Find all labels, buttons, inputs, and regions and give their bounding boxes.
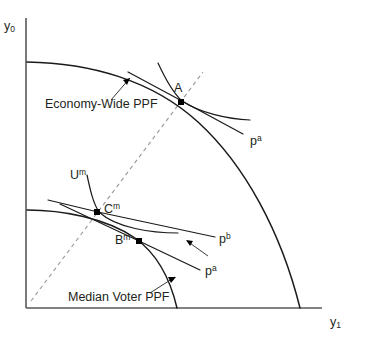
y-axis-label: y0 [4, 20, 15, 33]
utility-curve-um-label: Um [70, 169, 86, 182]
x-axis-label: y1 [330, 316, 341, 329]
price-line-pa-lower-label: pa [205, 265, 217, 278]
point-cm-label-text: C [104, 202, 113, 216]
indifference-curve-um [87, 175, 178, 233]
point-cm-label-superscript: m [113, 201, 120, 211]
economics-diagram-figure: y0 y1 Economy-Wide PPF Median Voter PPF … [0, 0, 366, 341]
point-a-label: A [174, 82, 182, 95]
point-bm-label: Bm [115, 234, 130, 247]
economy-wide-ppf-label: Economy-Wide PPF [45, 98, 158, 111]
price-line-pb-label-superscript: b [226, 231, 231, 241]
price-line-pa-lower-label-text: p [205, 264, 212, 278]
y-axis-label-subscript: 0 [10, 24, 15, 34]
price-line-pb [48, 200, 215, 237]
point-bm-marker [136, 238, 142, 244]
point-cm-label: Cm [104, 203, 120, 216]
price-line-pa-lower-label-superscript: a [212, 263, 217, 273]
point-a-marker [178, 99, 184, 105]
point-cm-marker [94, 209, 100, 215]
indifference-curve-a [158, 63, 250, 120]
utility-curve-um-label-text: U [70, 168, 79, 182]
point-bm-label-superscript: m [123, 232, 130, 242]
median-voter-ppf-label: Median Voter PPF [68, 291, 169, 304]
x-axis-label-subscript: 1 [336, 320, 341, 330]
price-line-pb-label-text: p [219, 232, 226, 246]
price-line-pa-upper-label-text: p [250, 134, 257, 148]
price-line-pa-upper-label: pa [250, 135, 262, 148]
utility-curve-um-label-superscript: m [79, 167, 86, 177]
price-line-pa-upper-label-superscript: a [257, 133, 262, 143]
price-line-pb-label: pb [219, 233, 231, 246]
point-a-label-text: A [174, 81, 182, 95]
diagram-canvas [0, 0, 366, 341]
